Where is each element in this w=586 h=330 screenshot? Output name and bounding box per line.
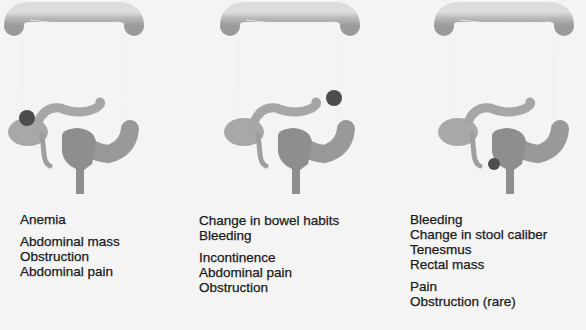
panel-left-colon: Change in bowel habitsBleedingIncontinen… — [200, 0, 395, 330]
colon-illustration — [400, 0, 586, 200]
symptom-list: AnemiaAbdominal massObstructionAbdominal… — [20, 212, 120, 279]
panel-rectum: BleedingChange in stool caliberTenesmusR… — [400, 0, 586, 330]
symptom-item: Pain — [410, 279, 547, 294]
colon-illustration — [200, 0, 395, 200]
symptom-item: Abdominal pain — [20, 264, 120, 279]
symptom-item: Bleeding — [410, 212, 547, 227]
symptom-item: Abdominal mass — [20, 234, 120, 249]
symptom-item: Obstruction — [199, 280, 339, 295]
symptom-item: Obstruction — [20, 249, 120, 264]
symptom-list: Change in bowel habitsBleedingIncontinen… — [199, 213, 339, 295]
symptom-item: Rectal mass — [410, 257, 547, 272]
colon-illustration — [0, 0, 195, 200]
symptom-item: Abdominal pain — [199, 265, 339, 280]
symptom-item: Change in bowel habits — [199, 213, 339, 228]
symptom-item: Bleeding — [199, 228, 339, 243]
panel-right-colon: AnemiaAbdominal massObstructionAbdominal… — [0, 0, 195, 330]
symptom-item: Change in stool caliber — [410, 227, 547, 242]
symptom-item: Obstruction (rare) — [410, 294, 547, 309]
symptom-item: Incontinence — [199, 250, 339, 265]
symptom-item: Tenesmus — [410, 242, 547, 257]
tumor-marker — [19, 110, 35, 126]
symptom-item: Anemia — [20, 212, 120, 227]
symptom-list: BleedingChange in stool caliberTenesmusR… — [410, 212, 547, 309]
tumor-marker — [326, 90, 342, 106]
tumor-marker — [488, 158, 500, 170]
